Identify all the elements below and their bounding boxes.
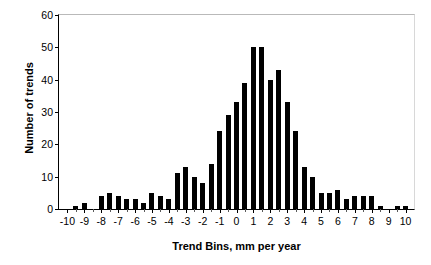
histogram-bar [378, 206, 383, 209]
histogram-bar [369, 196, 374, 209]
histogram-bar [395, 206, 400, 209]
y-axis-tick-label: 40 [41, 74, 53, 86]
histogram-bar [149, 193, 154, 209]
histogram-bar [242, 83, 247, 209]
histogram-bar [293, 131, 298, 209]
histogram-bar [200, 183, 205, 209]
histogram-bar [158, 196, 163, 209]
x-axis-tick [67, 209, 68, 213]
x-axis-tick [321, 209, 322, 213]
histogram-bar [251, 47, 256, 209]
x-axis-tick [304, 209, 305, 213]
y-axis-tick-label: 20 [41, 138, 53, 150]
x-axis-tick-label: -5 [147, 215, 156, 227]
x-axis-tick-label: 8 [369, 215, 375, 227]
histogram-bar [141, 203, 146, 209]
histogram-bar [124, 199, 129, 209]
histogram-bar [192, 177, 197, 209]
histogram-bar [166, 199, 171, 209]
x-axis-tick-label: 4 [301, 215, 307, 227]
x-axis-tick-minor [144, 209, 145, 212]
x-axis-tick [118, 209, 119, 213]
x-axis-tick-label: -1 [215, 215, 224, 227]
histogram-bar [361, 196, 366, 209]
histogram-bar [234, 102, 239, 209]
x-axis-tick-label: -6 [130, 215, 139, 227]
histogram-bar [116, 196, 121, 209]
histogram-bar [73, 206, 78, 209]
histogram-bar [285, 102, 290, 209]
histogram-bar [259, 47, 264, 209]
x-axis-tick-minor [211, 209, 212, 212]
x-axis-tick-label: -7 [113, 215, 122, 227]
x-axis-tick-label: -10 [60, 215, 75, 227]
x-axis-tick-label: -4 [164, 215, 173, 227]
y-axis-tick-label: 0 [47, 203, 53, 215]
x-axis-tick [253, 209, 254, 213]
histogram-bar [344, 199, 349, 209]
plot-area: 0102030405060 -10-9-8-7-6-5-4-3-2-101234… [58, 14, 415, 210]
x-axis-tick-label: -8 [97, 215, 106, 227]
x-axis-tick-minor [160, 209, 161, 212]
x-axis-tick-minor [262, 209, 263, 212]
x-axis-tick-label: -9 [80, 215, 89, 227]
x-axis-tick [338, 209, 339, 213]
histogram-bar [209, 164, 214, 209]
x-axis-tick-minor [279, 209, 280, 212]
x-axis-tick-label: 6 [335, 215, 341, 227]
histogram-bar [82, 203, 87, 209]
x-axis-tick-minor [313, 209, 314, 212]
histogram-bar [217, 131, 222, 209]
histogram-bar [302, 167, 307, 209]
histogram-bar [268, 80, 273, 209]
x-axis-tick [101, 209, 102, 213]
x-axis-tick [287, 209, 288, 213]
y-axis-tick [55, 209, 59, 210]
y-axis-tick-label: 50 [41, 41, 53, 53]
x-axis-tick-label: 9 [386, 215, 392, 227]
x-axis-tick-minor [380, 209, 381, 212]
x-axis-tick [372, 209, 373, 213]
x-axis-tick-minor [296, 209, 297, 212]
x-axis-tick [186, 209, 187, 213]
y-axis-tick-label: 10 [41, 171, 53, 183]
x-axis-title: Trend Bins, mm per year [58, 240, 415, 252]
x-axis-tick [220, 209, 221, 213]
x-axis-tick-minor [93, 209, 94, 212]
histogram-bar [335, 190, 340, 209]
histogram-bar [403, 206, 408, 209]
x-axis-tick-minor [363, 209, 364, 212]
histogram-bar [226, 115, 231, 209]
x-axis-tick [355, 209, 356, 213]
histogram-bar [183, 167, 188, 209]
x-axis-tick-minor [127, 209, 128, 212]
histogram-bar [310, 177, 315, 209]
x-axis-tick-minor [76, 209, 77, 212]
x-axis-tick [203, 209, 204, 213]
x-axis-tick-label: 0 [234, 215, 240, 227]
x-axis-tick-label: -2 [198, 215, 207, 227]
x-axis-tick [270, 209, 271, 213]
histogram-bar [107, 193, 112, 209]
histogram-bar [175, 173, 180, 209]
x-axis-tick-label: 10 [400, 215, 412, 227]
x-axis-tick-minor [177, 209, 178, 212]
x-axis-tick-minor [228, 209, 229, 212]
x-axis-tick-minor [245, 209, 246, 212]
y-axis-tick-label: 60 [41, 9, 53, 21]
histogram-chart: Number of trends 0102030405060 -10-9-8-7… [0, 0, 431, 265]
x-axis-tick-label: 7 [352, 215, 358, 227]
x-axis-tick-minor [329, 209, 330, 212]
x-axis-tick-label: 1 [250, 215, 256, 227]
histogram-bar [352, 196, 357, 209]
histogram-bar [133, 199, 138, 209]
x-axis-tick-label: 2 [267, 215, 273, 227]
x-axis-tick-label: 3 [284, 215, 290, 227]
x-axis-tick-minor [110, 209, 111, 212]
x-axis-tick-label: 5 [318, 215, 324, 227]
y-axis-title: Number of trends [23, 23, 35, 193]
x-axis-tick [135, 209, 136, 213]
x-axis-tick [169, 209, 170, 213]
y-axis-tick-label: 30 [41, 106, 53, 118]
histogram-bar [99, 196, 104, 209]
